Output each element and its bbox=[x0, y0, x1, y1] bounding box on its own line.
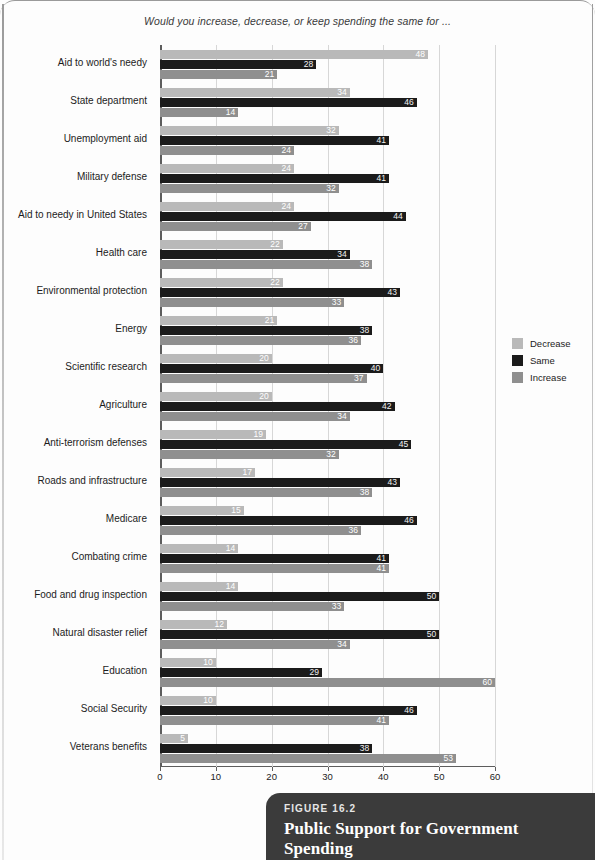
bar-value-label: 34 bbox=[337, 412, 346, 421]
bar-increase: 36 bbox=[160, 336, 361, 345]
bar-value-label: 40 bbox=[371, 364, 380, 373]
legend-swatch-same bbox=[512, 355, 523, 366]
bar-value-label: 38 bbox=[360, 326, 369, 335]
bar-decrease: 12 bbox=[160, 620, 227, 629]
bar-same: 41 bbox=[160, 554, 389, 563]
bar-value-label: 10 bbox=[203, 696, 212, 705]
category-label: Food and drug inspection bbox=[34, 590, 147, 600]
bar-group: 223438 bbox=[160, 240, 495, 269]
chart-plot-area: 0102030405060482821344614324124244132244… bbox=[160, 45, 495, 767]
bar-increase: 34 bbox=[160, 412, 350, 421]
bar-increase: 27 bbox=[160, 222, 311, 231]
bar-value-label: 41 bbox=[376, 716, 385, 725]
x-tick-label-10: 10 bbox=[211, 771, 222, 782]
figure-page: Would you increase, decrease, or keep sp… bbox=[0, 0, 595, 860]
bar-value-label: 22 bbox=[270, 240, 279, 249]
page-edge-right bbox=[592, 4, 594, 860]
bar-value-label: 12 bbox=[215, 620, 224, 629]
category-axis-labels: Aid to world's needyState departmentUnem… bbox=[0, 45, 155, 767]
bar-value-label: 37 bbox=[354, 374, 363, 383]
bar-same: 43 bbox=[160, 478, 400, 487]
bar-value-label: 24 bbox=[282, 202, 291, 211]
bar-group: 145033 bbox=[160, 582, 495, 611]
bar-increase: 33 bbox=[160, 298, 344, 307]
bar-same: 41 bbox=[160, 174, 389, 183]
bar-increase: 41 bbox=[160, 716, 389, 725]
bar-value-label: 32 bbox=[326, 184, 335, 193]
x-tick-label-60: 60 bbox=[490, 771, 501, 782]
bar-group: 244132 bbox=[160, 164, 495, 193]
bar-increase: 32 bbox=[160, 184, 339, 193]
bar-group: 204234 bbox=[160, 392, 495, 421]
bar-increase: 32 bbox=[160, 450, 339, 459]
bar-value-label: 33 bbox=[332, 298, 341, 307]
bar-same: 29 bbox=[160, 668, 322, 677]
bar-group: 125034 bbox=[160, 620, 495, 649]
bar-value-label: 5 bbox=[180, 734, 185, 743]
x-tick-label-30: 30 bbox=[322, 771, 333, 782]
bar-group: 102960 bbox=[160, 658, 495, 687]
bar-value-label: 41 bbox=[376, 554, 385, 563]
bar-group: 482821 bbox=[160, 50, 495, 79]
bar-value-label: 24 bbox=[282, 164, 291, 173]
bar-value-label: 41 bbox=[376, 564, 385, 573]
x-tick-label-40: 40 bbox=[378, 771, 389, 782]
bar-value-label: 34 bbox=[337, 250, 346, 259]
category-label: Unemployment aid bbox=[64, 134, 147, 144]
category-label: Aid to needy in United States bbox=[18, 210, 147, 220]
bar-value-label: 53 bbox=[443, 754, 452, 763]
bar-same: 38 bbox=[160, 744, 372, 753]
bar-value-label: 46 bbox=[404, 98, 413, 107]
bar-increase: 14 bbox=[160, 108, 238, 117]
bar-decrease: 32 bbox=[160, 126, 339, 135]
bar-group: 344614 bbox=[160, 88, 495, 117]
bar-decrease: 14 bbox=[160, 544, 238, 553]
bar-group: 204037 bbox=[160, 354, 495, 383]
legend-label: Same bbox=[530, 355, 555, 366]
bar-group: 53853 bbox=[160, 734, 495, 763]
bar-value-label: 24 bbox=[282, 146, 291, 155]
category-label: Military defense bbox=[77, 172, 147, 182]
bar-value-label: 32 bbox=[326, 450, 335, 459]
bar-decrease: 15 bbox=[160, 506, 244, 515]
category-label: Health care bbox=[96, 248, 147, 258]
category-label: State department bbox=[70, 96, 147, 106]
bar-same: 44 bbox=[160, 212, 406, 221]
bar-decrease: 22 bbox=[160, 278, 283, 287]
bar-decrease: 20 bbox=[160, 354, 272, 363]
bar-decrease: 5 bbox=[160, 734, 188, 743]
bar-value-label: 45 bbox=[399, 440, 408, 449]
legend-label: Increase bbox=[530, 372, 566, 383]
category-label: Roads and infrastructure bbox=[37, 476, 147, 486]
bar-value-label: 38 bbox=[360, 488, 369, 497]
category-label: Environmental protection bbox=[36, 286, 147, 296]
legend-swatch-decrease bbox=[512, 338, 523, 349]
bar-value-label: 20 bbox=[259, 354, 268, 363]
bar-decrease: 22 bbox=[160, 240, 283, 249]
bar-value-label: 27 bbox=[298, 222, 307, 231]
category-label: Natural disaster relief bbox=[53, 628, 147, 638]
legend-item-same: Same bbox=[512, 355, 571, 366]
bar-increase: 24 bbox=[160, 146, 294, 155]
bar-value-label: 17 bbox=[242, 468, 251, 477]
bar-increase: 38 bbox=[160, 260, 372, 269]
bar-value-label: 46 bbox=[404, 516, 413, 525]
bar-value-label: 22 bbox=[270, 278, 279, 287]
bar-same: 42 bbox=[160, 402, 395, 411]
bar-same: 41 bbox=[160, 136, 389, 145]
bar-increase: 60 bbox=[160, 678, 495, 687]
x-tick-label-0: 0 bbox=[157, 771, 162, 782]
bar-group: 104641 bbox=[160, 696, 495, 725]
legend-swatch-increase bbox=[512, 372, 523, 383]
bar-increase: 33 bbox=[160, 602, 344, 611]
bar-same: 34 bbox=[160, 250, 350, 259]
bar-value-label: 48 bbox=[416, 50, 425, 59]
bar-value-label: 38 bbox=[360, 744, 369, 753]
bar-same: 43 bbox=[160, 288, 400, 297]
category-label: Energy bbox=[115, 324, 147, 334]
category-label: Combating crime bbox=[71, 552, 147, 562]
bar-value-label: 34 bbox=[337, 640, 346, 649]
bar-decrease: 24 bbox=[160, 202, 294, 211]
legend-item-decrease: Decrease bbox=[512, 338, 571, 349]
bar-decrease: 24 bbox=[160, 164, 294, 173]
